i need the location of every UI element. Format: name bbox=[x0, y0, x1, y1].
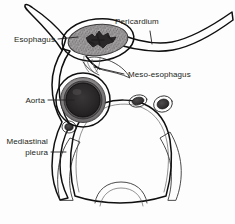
anatomical-diagram: Pericardium Esophagus Meso-esophagus Aor… bbox=[0, 0, 235, 224]
mediastinum-cross-section-svg: Pericardium Esophagus Meso-esophagus Aor… bbox=[0, 0, 235, 224]
mediastinal-pleura-label-line1: Mediastinal bbox=[6, 137, 48, 146]
mediastinal-pleura-label-line2: pleura bbox=[25, 148, 48, 157]
esophagus-label: Esophagus bbox=[14, 35, 55, 44]
pericardium-label: Pericardium bbox=[115, 17, 159, 26]
aorta-highlight bbox=[73, 89, 82, 95]
meso-esophagus-label: Meso-esophagus bbox=[128, 70, 191, 79]
aorta-label: Aorta bbox=[25, 96, 45, 105]
